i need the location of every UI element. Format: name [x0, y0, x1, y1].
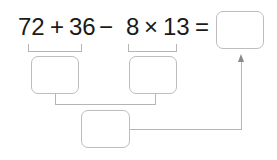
arrow-up-icon — [238, 54, 244, 62]
number-13: 13 — [163, 13, 190, 41]
answer-box[interactable] — [216, 11, 264, 49]
equals-sign: = — [195, 13, 209, 41]
connector-vertical — [241, 60, 242, 130]
plus-sign: + — [50, 13, 64, 41]
bracket-product — [128, 51, 177, 52]
bracket-sum — [28, 51, 82, 52]
minus-sign: − — [99, 13, 113, 41]
number-72: 72 — [18, 13, 45, 41]
join-bracket — [55, 104, 156, 105]
connector-horizontal — [130, 129, 242, 130]
difference-box[interactable] — [81, 110, 130, 148]
sum-box[interactable] — [31, 56, 79, 94]
times-sign: × — [144, 13, 158, 41]
product-box[interactable] — [129, 56, 177, 94]
number-36: 36 — [69, 13, 96, 41]
number-8: 8 — [126, 13, 139, 41]
